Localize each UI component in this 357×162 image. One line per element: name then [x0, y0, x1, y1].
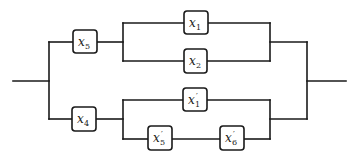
component-x1: x 1 — [184, 11, 208, 34]
component-var: x — [189, 54, 196, 68]
component-var: x — [78, 35, 85, 49]
component-sub: 5 — [160, 138, 165, 147]
block-diagram: x 5 x 4 x 1 x 2 x ′ 1 x ′ 5 x ′ 6 — [0, 0, 357, 162]
component-sub: 6 — [232, 138, 237, 147]
component-prime: ′ — [233, 129, 235, 138]
component-x6-prime: x ′ 6 — [220, 126, 244, 150]
component-x2: x 2 — [184, 49, 207, 73]
component-sub: 2 — [196, 61, 201, 70]
component-x4: x 4 — [72, 107, 96, 131]
component-x5: x 5 — [73, 30, 97, 53]
component-prime: ′ — [161, 129, 163, 138]
component-var: x — [77, 112, 84, 126]
component-prime: ′ — [196, 91, 198, 100]
component-var: x — [225, 131, 232, 145]
component-x5-prime: x ′ 5 — [148, 126, 172, 150]
component-var: x — [153, 131, 160, 145]
component-sub: 5 — [85, 42, 90, 51]
wires — [13, 23, 346, 139]
component-x1-prime: x ′ 1 — [183, 88, 207, 111]
component-var: x — [188, 93, 195, 107]
component-sub: 4 — [84, 119, 89, 128]
component-sub: 1 — [195, 100, 200, 109]
component-sub: 1 — [196, 23, 201, 32]
component-var: x — [189, 16, 196, 30]
